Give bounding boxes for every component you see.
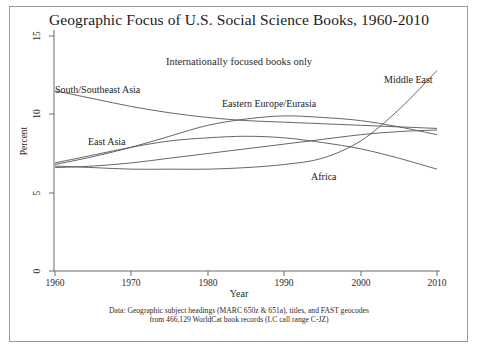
series-label-south-southeast-asia: South/Southeast Asia	[55, 84, 140, 95]
footnote-line-2: from 466,129 WorldCat book records (LC c…	[0, 315, 478, 324]
series-label-africa: Africa	[311, 171, 337, 182]
footnote-line-1: Data: Geographic subject headings (MARC …	[0, 306, 478, 315]
series-label-middle-east: Middle East	[384, 74, 433, 85]
figure-container: Geographic Focus of U.S. Social Science …	[0, 0, 478, 354]
plot-area	[0, 0, 478, 354]
series-label-eastern-europe-eurasia: Eastern Europe/Eurasia	[222, 98, 316, 109]
series-line-south-southeast-asia	[55, 91, 437, 129]
series-label-east-asia: East Asia	[88, 136, 126, 147]
